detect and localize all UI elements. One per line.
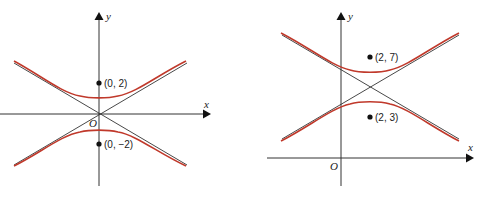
left-origin-label: O [89, 117, 97, 129]
right-point-top [367, 54, 372, 59]
left-x-label: x [203, 98, 209, 110]
left-hyperbola-lower [14, 130, 186, 166]
right-y-axis-arrow-icon [337, 12, 346, 20]
left-point-top-label: (0, 2) [104, 78, 127, 89]
left-x-axis-arrow-icon [203, 110, 211, 119]
right-point-bottom-label: (2, 3) [375, 112, 398, 123]
right-x-label: x [467, 141, 473, 153]
left-plot: (0, 2) (0, −2) x y O [0, 10, 211, 186]
left-point-bottom-label: (0, −2) [104, 139, 133, 150]
left-point-top [96, 80, 101, 85]
right-plot: (2, 7) (2, 3) x y O [267, 10, 474, 186]
right-hyperbola-lower [281, 102, 459, 141]
right-y-label: y [347, 10, 353, 22]
left-y-axis-arrow-icon [95, 12, 104, 20]
right-x-axis-arrow-icon [466, 154, 474, 163]
figure: (0, 2) (0, −2) x y O (2, 7) (2, 3) x y O [0, 0, 481, 202]
left-point-bottom [96, 141, 101, 146]
right-point-top-label: (2, 7) [375, 52, 398, 63]
right-hyperbola-upper [281, 33, 459, 72]
right-point-bottom [367, 114, 372, 119]
right-origin-label: O [330, 160, 338, 172]
left-y-label: y [105, 10, 111, 22]
left-hyperbola-upper [14, 61, 186, 98]
